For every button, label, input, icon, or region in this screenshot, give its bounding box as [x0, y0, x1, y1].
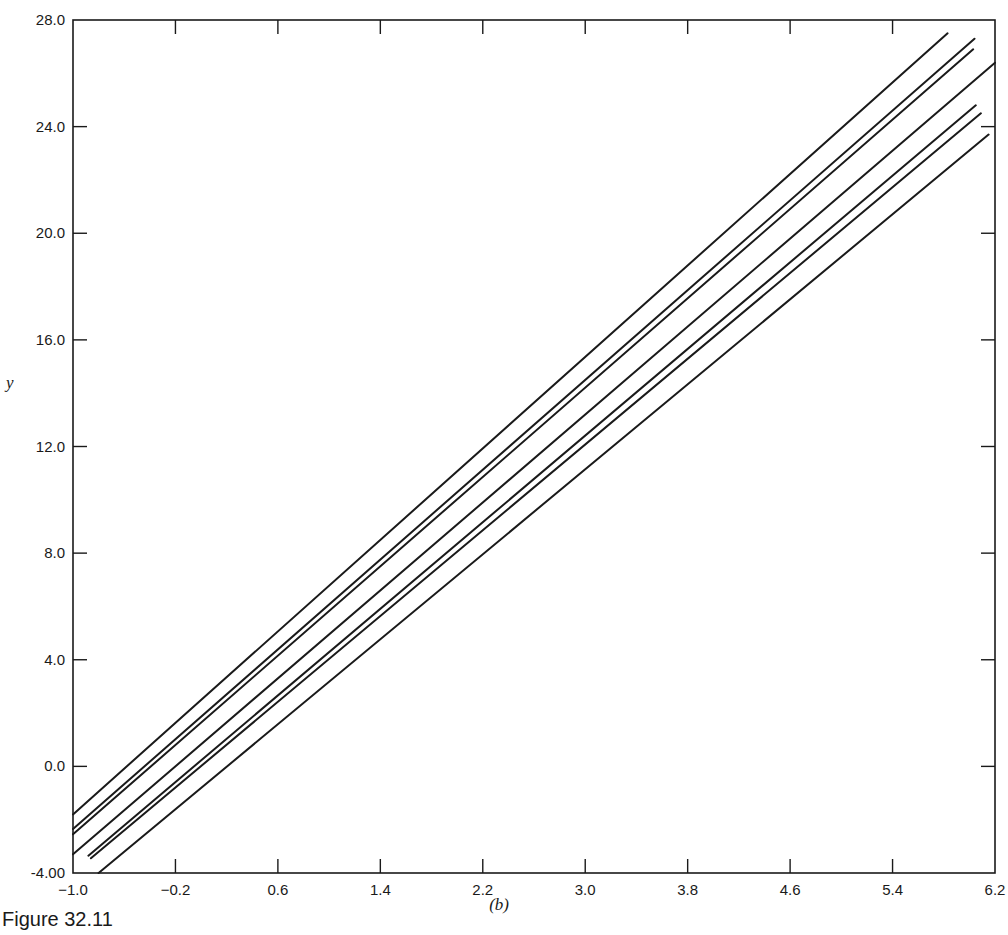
- x-tick-label: 4.6: [780, 881, 801, 898]
- series-line-5: [88, 105, 975, 855]
- y-axis-label: y: [4, 373, 14, 392]
- panel-label: (b): [489, 895, 509, 914]
- series-line-1: [73, 33, 948, 814]
- series-line-2: [73, 39, 975, 829]
- plot-frame: [73, 20, 995, 873]
- y-tick-label: 28.0: [36, 11, 65, 28]
- x-tick-label: 3.0: [575, 881, 596, 898]
- figure-caption: Figure 32.11: [2, 908, 113, 931]
- y-tick-label: -4.00: [31, 864, 65, 881]
- y-tick-label: 16.0: [36, 331, 65, 348]
- x-tick-label: 3.8: [677, 881, 698, 898]
- x-tick-label: −1.0: [58, 881, 88, 898]
- x-tick-label: 1.4: [370, 881, 391, 898]
- y-tick-label: 4.0: [44, 651, 65, 668]
- y-tick-label: 12.0: [36, 438, 65, 455]
- series-line-7: [99, 135, 989, 873]
- x-tick-label: 0.6: [267, 881, 288, 898]
- x-tick-label: −0.2: [161, 881, 191, 898]
- series-line-4: [73, 63, 995, 855]
- series-line-6: [91, 113, 981, 858]
- y-tick-label: 0.0: [44, 757, 65, 774]
- y-tick-label: 24.0: [36, 118, 65, 135]
- x-tick-label: 5.4: [882, 881, 903, 898]
- line-chart: −1.0−0.20.61.42.23.03.84.65.46.2-4.000.0…: [0, 0, 1008, 935]
- x-tick-label: 6.2: [985, 881, 1006, 898]
- y-tick-label: 20.0: [36, 224, 65, 241]
- series-line-3: [73, 49, 973, 834]
- y-tick-label: 8.0: [44, 544, 65, 561]
